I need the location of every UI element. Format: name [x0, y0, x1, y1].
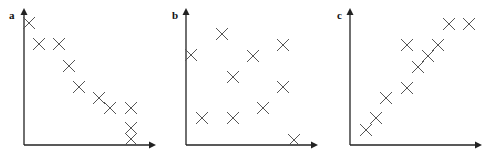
- x-marker-icon: [370, 112, 382, 124]
- x-marker-icon: [125, 122, 137, 134]
- y-axis-arrow-icon: [21, 8, 28, 15]
- scatter-plots-canvas: [0, 0, 488, 150]
- x-marker-icon: [125, 102, 137, 114]
- x-marker-icon: [432, 39, 444, 51]
- x-marker-icon: [277, 81, 289, 93]
- x-marker-icon: [277, 39, 289, 51]
- scatter-panel-c: [347, 8, 483, 149]
- x-marker-icon: [125, 133, 137, 145]
- x-marker-icon: [380, 92, 392, 104]
- x-marker-icon: [257, 102, 269, 114]
- y-axis-arrow-icon: [347, 8, 354, 15]
- x-axis-arrow-icon: [149, 142, 156, 149]
- scatter-figure: a b c: [0, 0, 488, 150]
- x-axis-arrow-icon: [475, 142, 482, 149]
- x-marker-icon: [216, 28, 228, 40]
- x-marker-icon: [104, 102, 116, 114]
- x-marker-icon: [63, 60, 75, 72]
- x-marker-icon: [73, 81, 85, 93]
- scatter-panel-b: [183, 8, 319, 149]
- x-marker-icon: [288, 134, 300, 146]
- x-marker-icon: [360, 124, 372, 136]
- x-marker-icon: [247, 50, 259, 62]
- x-marker-icon: [401, 39, 413, 51]
- x-marker-icon: [422, 50, 434, 62]
- x-marker-icon: [227, 112, 239, 124]
- x-marker-icon: [463, 18, 475, 30]
- x-marker-icon: [401, 82, 413, 94]
- scatter-panel-a: [21, 8, 157, 149]
- x-marker-icon: [196, 112, 208, 124]
- x-marker-icon: [53, 38, 65, 50]
- x-marker-icon: [443, 18, 455, 30]
- x-marker-icon: [412, 61, 424, 73]
- x-axis-arrow-icon: [311, 142, 318, 149]
- y-axis-arrow-icon: [183, 8, 190, 15]
- x-marker-icon: [33, 38, 45, 50]
- x-marker-icon: [23, 17, 35, 29]
- x-marker-icon: [185, 49, 197, 61]
- x-marker-icon: [93, 92, 105, 104]
- x-marker-icon: [227, 71, 239, 83]
